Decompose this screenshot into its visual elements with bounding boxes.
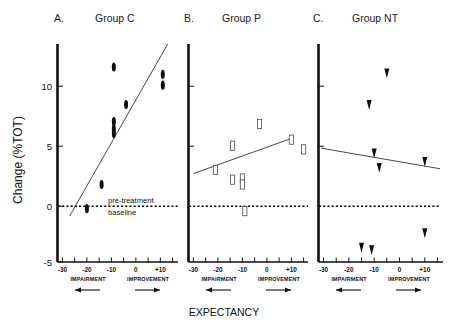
data-point [257, 119, 261, 128]
panel-a-improvement-label: IMPROVEMENT [127, 276, 169, 282]
x-tick-label: -30 [319, 266, 329, 273]
panel-b: B. Group P -30-20-100+10 IMPAIRMENT IMPR… [184, 12, 308, 293]
panel-c-improvement-label: IMPROVEMENT [388, 276, 430, 282]
scientific-figure: Change (%TOT) A. Group C 10 5 0 -5 -30-2… [0, 0, 449, 330]
x-tick-label: -20 [82, 266, 92, 273]
y-tick-5: 5 [47, 141, 52, 152]
x-axis-label: EXPECTANCY [189, 306, 259, 318]
panel-c-impairment-label: IMPAIRMENT [331, 276, 367, 282]
panel-b-impairment-arrow [206, 287, 231, 292]
data-point [359, 243, 364, 253]
panel-c-x-tick-labels: -30-20-100+10 [319, 266, 431, 273]
panel-b-impairment-label: IMPAIRMENT [201, 276, 237, 282]
panel-b-x-tick-labels: -30-20-100+10 [189, 266, 297, 273]
panel-a-regression-line [70, 44, 168, 216]
panel-a: A. Group C 10 5 0 -5 -30-20-100+10 pre-t… [41, 12, 178, 293]
y-tick-neg5: -5 [44, 257, 52, 268]
panel-a-impairment-label: IMPAIRMENT [70, 276, 106, 282]
panel-a-data-points [85, 62, 165, 213]
y-axis-label: Change (%TOT) [11, 116, 25, 204]
panel-b-regression-line [193, 138, 291, 173]
panel-a-title: Group C [95, 12, 135, 24]
panel-c-title: Group NT [352, 12, 399, 24]
data-point [161, 70, 165, 79]
x-tick-label: -20 [344, 266, 354, 273]
data-point [302, 145, 306, 154]
y-tick-0: 0 [47, 201, 52, 212]
data-point [112, 62, 116, 71]
panel-a-letter: A. [54, 12, 64, 24]
x-tick-label: 0 [265, 266, 269, 273]
data-point [422, 228, 427, 238]
figure-container: Change (%TOT) A. Group C 10 5 0 -5 -30-2… [0, 0, 449, 330]
panel-b-letter: B. [184, 12, 194, 24]
data-point [213, 165, 217, 174]
data-point [240, 180, 244, 189]
regression-line [70, 44, 168, 216]
regression-line [193, 138, 291, 173]
data-point [112, 129, 116, 138]
data-point [422, 157, 427, 167]
data-point [230, 175, 234, 184]
x-tick-label: +10 [286, 266, 297, 273]
data-point [377, 163, 382, 173]
panel-b-improvement-arrow [266, 287, 291, 292]
data-point [100, 180, 104, 189]
panel-a-improvement-arrow [135, 287, 160, 292]
panel-c-letter: C. [313, 12, 324, 24]
data-point [369, 245, 374, 255]
x-tick-label: 0 [398, 266, 402, 273]
data-point [243, 207, 247, 216]
x-tick-label: +10 [155, 266, 166, 273]
data-point [85, 204, 89, 213]
panel-b-title: Group P [222, 12, 261, 24]
data-point [367, 100, 372, 110]
x-tick-label: -30 [58, 266, 68, 273]
y-tick-10: 10 [41, 81, 52, 92]
data-point [384, 68, 389, 78]
x-tick-label: 0 [134, 266, 138, 273]
panel-c-impairment-arrow [336, 287, 361, 292]
panel-c-data-points [359, 68, 427, 255]
data-point [161, 81, 165, 90]
panel-c-improvement-arrow [396, 287, 421, 292]
x-tick-label: -30 [189, 266, 199, 273]
baseline-label-line2: baseline [108, 208, 136, 217]
panel-a-x-tick-labels: -30-20-100+10 [58, 266, 166, 273]
data-point [124, 100, 128, 109]
x-tick-label: -10 [107, 266, 117, 273]
data-point [230, 141, 234, 150]
panel-b-improvement-label: IMPROVEMENT [258, 276, 300, 282]
panel-b-data-points [213, 119, 305, 215]
baseline-label-line1: pre-treatment [108, 196, 154, 205]
data-point [289, 135, 293, 144]
x-tick-label: +10 [419, 266, 430, 273]
x-tick-label: -20 [213, 266, 223, 273]
x-tick-label: -10 [370, 266, 380, 273]
panel-c: C. Group NT -30-20-100+10 IMPAIRMENT IMP… [313, 12, 443, 293]
y-axis-label-group: Change (%TOT) [11, 116, 25, 204]
panel-a-impairment-arrow [75, 287, 100, 292]
x-tick-label: -10 [238, 266, 248, 273]
